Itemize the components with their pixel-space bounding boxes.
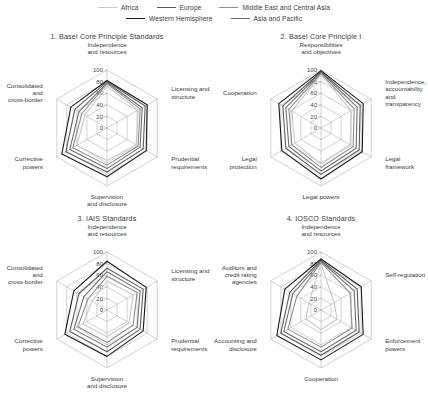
legend-label: Europe — [180, 4, 202, 11]
legend-line-swatch — [219, 7, 238, 8]
chart-legend: AfricaEuropeMiddle East and Central Asia… — [0, 2, 428, 24]
legend-label: Asia and Pacific — [254, 15, 303, 22]
axis-label-line: powers — [23, 163, 43, 170]
axis-category-label: Correctivepowers — [15, 155, 44, 169]
axis-label-line: Cooperation — [304, 375, 338, 382]
axis-label-line: Enforcement — [385, 337, 420, 344]
axis-label-line: Independence, — [385, 78, 426, 85]
axis-label-line: Consolidated — [7, 82, 44, 89]
legend-line-swatch — [231, 18, 250, 19]
legend-label: Western Hemisphere — [149, 15, 213, 22]
radar-panel-1: 1. Basel Core Principle Standards 020406… — [0, 30, 214, 210]
axis-label-line: cross-border — [8, 278, 43, 285]
legend-item-africa[interactable]: Africa — [98, 4, 138, 11]
series-polygon — [66, 82, 145, 172]
legend-label: Africa — [121, 4, 138, 11]
axis-label-line: Supervision — [91, 193, 124, 200]
axis-label-line: agencies — [232, 278, 257, 285]
axis-label-line: powers — [385, 345, 405, 352]
axis-label-line: Responsibilities — [300, 41, 343, 48]
legend-line-swatch — [98, 7, 117, 8]
axis-label-line: credit rating — [224, 271, 257, 278]
axis-label-line: disclosure — [229, 345, 257, 352]
axis-label-line: Corrective — [15, 337, 44, 344]
axis-label-line: framework — [385, 163, 415, 170]
axis-label-line: Legal — [385, 155, 400, 162]
legend-item-western-hemisphere[interactable]: Western Hemisphere — [126, 15, 213, 22]
axis-label-line: and resources — [301, 230, 340, 237]
axis-category-label: Independenceand resources — [87, 223, 127, 237]
axis-label-line: Independence — [87, 223, 127, 230]
legend-label: Middle East and Central Asia — [242, 4, 329, 11]
axis-category-label: Licensing andstructure — [171, 85, 210, 99]
axis-category-label: Legalframework — [385, 155, 415, 169]
axis-label-line: Licensing and — [171, 85, 210, 92]
axis-category-label: Legal powers — [303, 193, 340, 200]
axis-label-line: Corrective — [15, 155, 44, 162]
axis-label-line: and — [32, 89, 43, 96]
legend-row-1: AfricaEuropeMiddle East and Central Asia — [0, 2, 428, 13]
axis-spoke — [321, 128, 371, 157]
axis-spoke — [321, 99, 371, 128]
axis-label-line: structure — [171, 275, 196, 282]
axis-category-label: Supervisionand disclosure — [87, 375, 127, 389]
axis-category-label: Correctivepowers — [15, 337, 44, 351]
axis-label-line: Cooperation — [223, 89, 257, 96]
axis-category-label: Enforcementpowers — [385, 337, 420, 351]
axis-label-line: Legal — [242, 155, 257, 162]
tick-label: 100 — [307, 67, 318, 73]
axis-spoke — [271, 128, 321, 157]
axis-label-line: requirements — [171, 163, 207, 170]
axis-category-label: Self-regulation — [385, 271, 425, 278]
axis-label-line: Prudential — [171, 155, 199, 162]
tick-label: 100 — [93, 249, 104, 255]
axis-category-label: Accounting anddisclosure — [214, 337, 257, 351]
radar-panel-4: 4. IOSCO Standards 020406080100Independe… — [214, 212, 428, 392]
axis-label-line: Licensing and — [171, 267, 210, 274]
axis-label-line: transparency — [385, 100, 422, 107]
axis-category-label: Legalprotection — [230, 155, 258, 169]
tick-label: 20 — [310, 114, 317, 120]
axis-category-label: Auditors andcredit ratingagencies — [222, 264, 257, 285]
axis-label-line: Independence — [301, 223, 341, 230]
legend-item-europe[interactable]: Europe — [157, 4, 202, 11]
axis-label-line: protection — [230, 163, 258, 170]
axis-category-label: Responsibilitiesand objectives — [300, 41, 343, 55]
legend-item-asia-and-pacific[interactable]: Asia and Pacific — [231, 15, 303, 22]
tick-label: 100 — [93, 67, 104, 73]
axis-label-line: powers — [23, 345, 43, 352]
radar-chart-figure: AfricaEuropeMiddle East and Central Asia… — [0, 0, 428, 393]
axis-label-line: Prudential — [171, 337, 199, 344]
axis-label-line: and disclosure — [87, 200, 127, 207]
radar-plot: 020406080100Responsibilitiesand objectiv… — [214, 30, 428, 210]
tick-label: 20 — [96, 296, 103, 302]
axis-label-line: Self-regulation — [385, 271, 425, 278]
axis-label-line: Accounting and — [214, 337, 257, 344]
axis-category-label: Independenceand resources — [301, 223, 341, 237]
tick-label: 40 — [310, 102, 317, 108]
radar-plot: 020406080100Independenceand resourcesSel… — [214, 212, 428, 392]
series-polygon — [77, 86, 138, 160]
radar-panel-2: 2. Basel Core Principle I 020406080100Re… — [214, 30, 428, 210]
axis-category-label: Cooperation — [223, 89, 257, 96]
axis-label-line: structure — [171, 93, 196, 100]
axis-label-line: and disclosure — [87, 382, 127, 389]
axis-label-line: and — [385, 93, 396, 100]
tick-label: 40 — [96, 102, 103, 108]
axis-label-line: Consolidated — [7, 264, 44, 271]
axis-category-label: Independenceand resources — [87, 41, 127, 55]
radar-panel-3: 3. IAIS Standards 020406080100Independen… — [0, 212, 214, 392]
axis-label-line: and resources — [87, 48, 126, 55]
legend-line-swatch — [126, 18, 145, 19]
axis-label-line: Auditors and — [222, 264, 257, 271]
radar-plot: 020406080100Independenceand resourcesLic… — [0, 30, 214, 210]
axis-label-line: cross-border — [8, 96, 43, 103]
axis-label-line: and — [32, 271, 43, 278]
legend-line-swatch — [157, 7, 176, 8]
series-polygon — [284, 261, 356, 351]
tick-label: 60 — [310, 90, 317, 96]
axis-label-line: Legal powers — [303, 193, 340, 200]
axis-category-label: Cooperation — [304, 375, 338, 382]
legend-item-middle-east-and-central-asia[interactable]: Middle East and Central Asia — [219, 4, 329, 11]
axis-category-label: Independence,accountabilityandtransparen… — [385, 78, 426, 107]
